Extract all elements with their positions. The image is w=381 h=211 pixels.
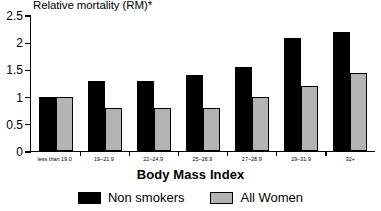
bar-group xyxy=(178,16,227,151)
gray-square-swatch xyxy=(210,192,233,204)
legend-item[interactable]: Non smokers xyxy=(78,190,185,205)
y-axis-title: Relative mortality (RM)* xyxy=(33,0,152,11)
chart-legend: Non smokersAll Women xyxy=(0,190,381,205)
bar-all-women[interactable] xyxy=(154,108,171,151)
chart-figure: Relative mortality (RM)* 00.511.522.5 le… xyxy=(0,0,381,211)
x-axis-tick-label: 22–24.9 xyxy=(129,156,178,162)
bar-all-women[interactable] xyxy=(56,97,73,151)
bar-group xyxy=(228,16,277,151)
bar-all-women[interactable] xyxy=(105,108,122,151)
x-axis-tick-label: 19–21.9 xyxy=(79,156,128,162)
x-axis-tick-label: less than 19.0 xyxy=(30,156,79,162)
x-axis-tick xyxy=(80,151,81,156)
bar-non-smokers[interactable] xyxy=(39,97,56,151)
bar-non-smokers[interactable] xyxy=(186,75,203,150)
bar-group xyxy=(129,16,178,151)
bar-all-women[interactable] xyxy=(350,73,367,151)
x-axis-title: Body Mass Index xyxy=(0,167,381,182)
bar-non-smokers[interactable] xyxy=(333,32,350,150)
x-axis-tick-label: 27–28.9 xyxy=(227,156,276,162)
black-square-swatch xyxy=(78,192,101,204)
x-axis-tick-labels: less than 19.019–21.922–24.925–26.927–28… xyxy=(30,156,375,162)
bar-all-women[interactable] xyxy=(252,97,269,151)
x-axis-tick-label: 25–26.9 xyxy=(178,156,227,162)
y-axis-tick-label: 1.5 xyxy=(6,63,23,77)
bar-non-smokers[interactable] xyxy=(88,81,105,151)
y-axis-tick-label: 1 xyxy=(16,91,23,105)
bar-non-smokers[interactable] xyxy=(137,81,154,151)
legend-item-label: All Women xyxy=(240,190,303,205)
legend-item-label: Non smokers xyxy=(108,190,185,205)
x-axis-tick xyxy=(325,151,326,156)
bar-all-women[interactable] xyxy=(301,86,318,151)
bar-group xyxy=(80,16,129,151)
y-axis-tick-label: 0.5 xyxy=(6,118,23,132)
plot-area: 00.511.522.5 xyxy=(30,16,375,152)
bar-group xyxy=(277,16,326,151)
x-axis-tick xyxy=(227,151,228,156)
x-axis-tick-label: 29–31.9 xyxy=(276,156,325,162)
y-axis-tick-label: 0 xyxy=(16,145,23,159)
y-axis-tick-label: 2 xyxy=(16,36,23,50)
bar-group xyxy=(31,16,80,151)
bar-non-smokers[interactable] xyxy=(284,38,301,151)
x-axis-line xyxy=(30,151,375,152)
bar-all-women[interactable] xyxy=(203,108,220,151)
x-axis-tick xyxy=(178,151,179,156)
y-axis-tick xyxy=(25,151,31,152)
x-axis-tick-label: 32+ xyxy=(326,156,375,162)
bar-non-smokers[interactable] xyxy=(235,67,252,150)
legend-item[interactable]: All Women xyxy=(210,190,303,205)
y-axis-tick-label: 2.5 xyxy=(6,9,23,23)
x-axis-tick xyxy=(276,151,277,156)
x-axis-tick xyxy=(129,151,130,156)
bar-group xyxy=(326,16,375,151)
bar-series-container xyxy=(31,16,375,151)
